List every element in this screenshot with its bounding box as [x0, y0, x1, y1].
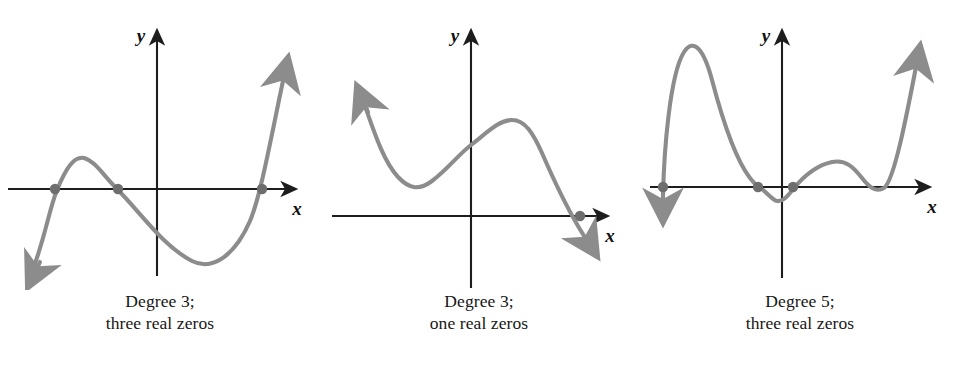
zero-dot	[257, 184, 267, 194]
caption-line-zeros: three real zeros	[4, 312, 316, 334]
panel-caption-3: Degree 5; three real zeros	[644, 290, 956, 335]
y-axis-label: y	[760, 25, 771, 46]
panel-caption-1: Degree 3; three real zeros	[4, 290, 316, 335]
polynomial-curve	[663, 46, 920, 201]
zero-dot	[658, 182, 668, 192]
graph-panel-degree-3-one-zero: x y Degree 3; one real zeros	[320, 0, 638, 367]
x-axis-label: x	[604, 225, 615, 246]
y-axis-label: y	[449, 25, 460, 46]
caption-line-degree: Degree 3;	[320, 290, 638, 312]
graph-canvas-2: x y	[320, 0, 638, 290]
x-axis-label: x	[291, 198, 302, 219]
zero-dot	[753, 182, 763, 192]
x-axis-label: x	[926, 196, 937, 217]
zero-dot	[113, 184, 123, 194]
zero-dot	[788, 182, 798, 192]
caption-line-degree: Degree 3;	[4, 290, 316, 312]
caption-line-zeros: three real zeros	[644, 312, 956, 334]
polynomial-curve	[360, 92, 597, 256]
curve-left-arrow	[357, 86, 368, 112]
caption-line-degree: Degree 5;	[644, 290, 956, 312]
polynomial-graphs-figure: x y Degree 3; three real zeros	[0, 0, 956, 367]
zero-dot	[50, 184, 60, 194]
zero-dot	[575, 211, 585, 221]
graph-panel-degree-5-three-zeros: x y Degree 5; three real zeros	[638, 0, 956, 367]
graph-panel-degree-3-three-zeros: x y Degree 3; three real zeros	[0, 0, 320, 367]
y-axis-label: y	[135, 25, 146, 46]
caption-line-zeros: one real zeros	[320, 312, 638, 334]
panel-caption-2: Degree 3; one real zeros	[320, 290, 638, 335]
graph-canvas-1: x y	[0, 0, 320, 290]
graph-canvas-3: x y	[638, 0, 956, 290]
